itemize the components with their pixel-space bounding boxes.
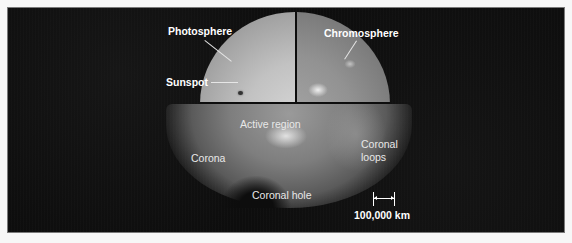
sun-upper-half: [200, 8, 390, 104]
sunspot-label: Sunspot: [166, 76, 208, 88]
coronal-loops-label-line1: Coronal: [361, 138, 398, 150]
scale-bar: [373, 192, 395, 206]
photosphere-label: Photosphere: [168, 25, 232, 37]
corona-label: Corona: [191, 152, 225, 164]
coronal-hole-label: Coronal hole: [252, 189, 312, 201]
double-arrow-icon: [374, 198, 394, 199]
sunspot-leader-line: [211, 82, 238, 83]
active-region-label: Active region: [240, 118, 301, 130]
scale-label: 100,000 km: [354, 209, 410, 221]
sun-diagram-panel: Photosphere Chromosphere Sunspot Active …: [7, 7, 565, 233]
vertical-divider: [295, 12, 297, 104]
horizontal-divider: [200, 102, 390, 104]
coronal-loops-label-line2: loops: [361, 151, 386, 163]
sunspot-mark: [238, 91, 243, 95]
chromosphere-label: Chromosphere: [324, 27, 399, 39]
